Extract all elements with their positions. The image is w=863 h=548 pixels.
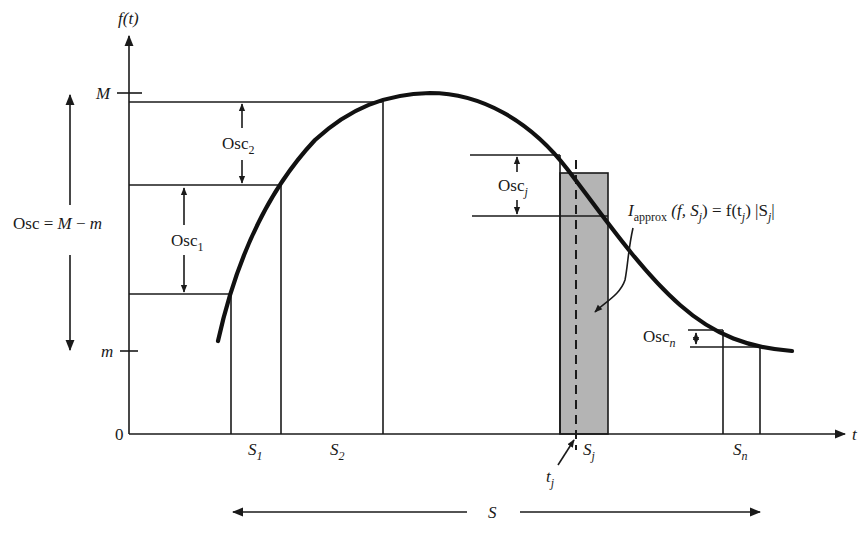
osc1-label: Osc1 (171, 231, 203, 254)
S-span-label: S (488, 503, 497, 522)
origin-label: 0 (115, 425, 124, 444)
tj-pointer-arrow (558, 440, 574, 465)
tj-label: tj (546, 467, 555, 490)
oscj-label: Oscj (498, 176, 528, 199)
x-axis-label: t (852, 425, 858, 444)
y-axis-label: f(t) (118, 9, 139, 28)
iapprox-formula: Iapprox (f, Sj) = f(tj) |Sj| (627, 201, 775, 224)
function-curve (218, 93, 792, 351)
riemann-oscillation-diagram: f(t) t 0 M m Osc = M − m Osc2 Osc1 Oscj … (0, 0, 863, 548)
interval-label-S1: S1 (248, 440, 263, 463)
M-label: M (95, 84, 111, 103)
osc2-label: Osc2 (222, 134, 254, 157)
osc-total-label: Osc = M − m (13, 214, 102, 233)
interval-label-S2: S2 (330, 440, 345, 463)
oscn-label: Oscn (643, 327, 675, 350)
interval-label-Sj: Sj (583, 440, 596, 463)
m-label: m (101, 342, 113, 361)
interval-label-Sn: Sn (733, 440, 748, 463)
